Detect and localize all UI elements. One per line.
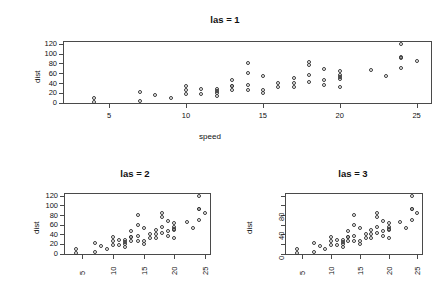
data-point <box>410 218 414 222</box>
y-axis-title: dist <box>33 70 42 82</box>
data-point <box>136 213 140 217</box>
x-axis-tick <box>263 104 264 108</box>
y-axis-tick <box>59 44 63 45</box>
data-point <box>184 92 188 96</box>
data-point <box>369 228 373 232</box>
data-point <box>93 241 97 245</box>
x-axis-tick-label: 15 <box>140 267 149 275</box>
data-point <box>185 220 189 224</box>
y-axis-tick-label: 0 <box>26 249 58 258</box>
y-axis-tick-label: 120 <box>26 191 58 200</box>
data-point <box>338 85 342 89</box>
x-axis-tick-label: 20 <box>170 267 179 275</box>
data-point <box>381 234 385 238</box>
data-point <box>246 88 250 92</box>
data-point <box>148 236 152 240</box>
data-point <box>169 96 173 100</box>
data-point <box>92 96 96 100</box>
data-point <box>364 236 368 240</box>
y-axis-tick <box>281 205 285 206</box>
data-point <box>307 80 311 84</box>
panel-title: las = 2 <box>75 168 195 179</box>
data-point <box>292 85 296 89</box>
data-point <box>246 83 250 87</box>
y-axis-title: dist <box>32 222 41 234</box>
y-axis-tick <box>59 103 63 104</box>
x-axis-tick <box>174 255 175 259</box>
y-axis-tick-label: 60 <box>26 220 58 229</box>
data-point <box>358 226 362 230</box>
data-point <box>387 225 391 229</box>
data-point <box>352 223 356 227</box>
data-point <box>323 247 327 251</box>
x-axis-title: speed <box>160 132 260 141</box>
y-axis-tick <box>281 244 285 245</box>
data-point <box>153 93 157 97</box>
x-axis-tick <box>205 255 206 259</box>
data-point <box>384 74 388 78</box>
data-point <box>312 250 316 254</box>
y-axis-tick-label: 40 <box>26 230 58 239</box>
data-point <box>197 207 201 211</box>
y-axis-tick <box>59 73 63 74</box>
x-axis-tick <box>389 255 390 259</box>
data-point <box>93 250 97 254</box>
x-axis-tick <box>360 255 361 259</box>
x-axis-tick <box>302 255 303 259</box>
data-point <box>261 74 265 78</box>
data-point <box>166 219 170 223</box>
x-axis-tick-label: 25 <box>413 267 422 275</box>
y-axis-tick <box>59 83 63 84</box>
x-axis-tick <box>340 104 341 108</box>
y-axis-tick <box>60 196 64 197</box>
data-point <box>295 247 299 251</box>
data-point <box>142 226 146 230</box>
x-axis-tick-label: 20 <box>320 111 360 120</box>
y-axis-tick <box>281 196 285 197</box>
data-point <box>329 243 333 247</box>
data-point <box>261 88 265 92</box>
y-axis-tick-label: 100 <box>26 201 58 210</box>
data-point <box>410 207 414 211</box>
x-axis-tick-label: 10 <box>166 111 206 120</box>
y-axis-tick <box>281 254 285 255</box>
data-point <box>160 225 164 229</box>
data-point <box>74 251 78 255</box>
data-point <box>292 76 296 80</box>
data-point <box>387 221 391 225</box>
y-axis-tick-label: 0 <box>277 255 286 259</box>
panel-title: las = 1 <box>165 14 285 25</box>
data-point <box>341 238 345 242</box>
data-point <box>295 251 299 255</box>
x-axis-tick <box>417 104 418 108</box>
data-point <box>138 99 142 103</box>
data-point <box>136 239 140 243</box>
data-point <box>364 232 368 236</box>
data-point <box>172 225 176 229</box>
x-axis-tick-label: 5 <box>89 111 129 120</box>
data-point <box>369 68 373 72</box>
x-axis-tick-label: 5 <box>78 271 87 275</box>
y-axis-tick-label: 20 <box>26 239 58 248</box>
y-axis-tick-label: 100 <box>25 49 57 58</box>
x-axis-tick <box>144 255 145 259</box>
data-point <box>415 59 419 63</box>
data-point <box>410 194 414 198</box>
data-point <box>404 226 408 230</box>
y-axis-tick-label: 20 <box>25 88 57 97</box>
data-point <box>184 88 188 92</box>
y-axis-tick <box>60 244 64 245</box>
y-axis-tick <box>60 254 64 255</box>
data-point <box>375 225 379 229</box>
data-point <box>335 238 339 242</box>
data-point <box>338 73 342 77</box>
x-axis-tick <box>82 255 83 259</box>
data-point <box>99 244 103 248</box>
data-point <box>92 100 96 104</box>
x-axis-tick <box>109 104 110 108</box>
data-point <box>375 215 379 219</box>
y-axis-tick-label: 80 <box>277 213 286 221</box>
data-point <box>292 81 296 85</box>
data-point <box>136 234 140 238</box>
y-axis-tick <box>60 205 64 206</box>
